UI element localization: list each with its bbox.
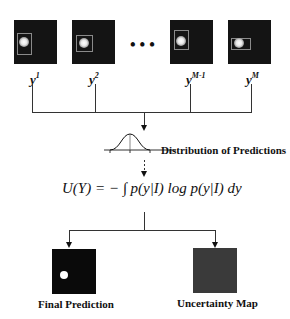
uncertainty-map-image <box>193 248 237 293</box>
formula-connector <box>144 212 145 231</box>
final-prediction-image <box>52 249 96 294</box>
connector-m-1 <box>190 84 191 113</box>
arrow-down-icon <box>66 242 72 248</box>
arrow-down-icon <box>141 171 147 177</box>
center-connector <box>144 112 145 126</box>
blob <box>79 38 89 48</box>
sample-image-2 <box>72 20 115 64</box>
left-branch <box>69 230 70 242</box>
connector-m <box>251 84 252 113</box>
blob <box>234 38 244 48</box>
sample-image-m <box>228 20 271 64</box>
sample-image-m-1 <box>170 20 213 64</box>
blob <box>19 37 29 47</box>
sample-image-1 <box>14 20 57 64</box>
right-branch <box>215 230 216 242</box>
entropy-formula: U(Y) = − ∫ p(y|I) log p(y|I) dy <box>62 180 242 197</box>
blob <box>176 36 186 46</box>
sample-label-2: y2 <box>89 69 99 86</box>
prediction-blob <box>60 271 68 279</box>
connector-1 <box>32 84 33 113</box>
sample-label-m-1: yM-1 <box>186 69 206 86</box>
merge-line <box>32 112 252 113</box>
connector-2 <box>95 84 96 113</box>
final-prediction-label: Final Prediction <box>38 298 114 310</box>
distribution-label: Distribution of Predictions <box>161 144 286 156</box>
sample-label-m: yM <box>246 69 259 86</box>
split-line <box>69 230 216 231</box>
ellipsis: ••• <box>130 36 159 54</box>
uncertainty-map-label: Uncertainty Map <box>177 297 258 309</box>
